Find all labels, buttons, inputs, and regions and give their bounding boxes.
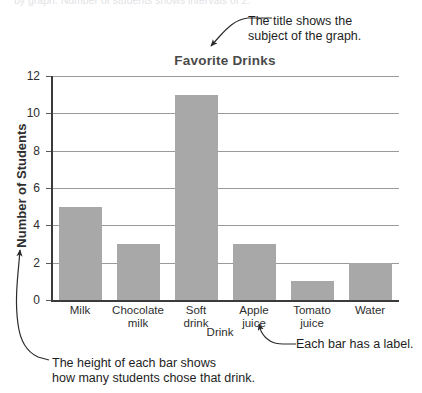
- x-axis-category-label-line: Apple: [225, 304, 283, 317]
- clipped-header-text: by graph. Number of students shows inter…: [14, 0, 414, 6]
- bar: [291, 281, 334, 300]
- worksheet-figure: by graph. Number of students shows inter…: [0, 0, 422, 393]
- gridline: [51, 151, 399, 152]
- y-axis-title: Number of Students: [14, 96, 29, 276]
- x-axis-category-label-line: Tomato: [283, 304, 341, 317]
- y-axis-tick: [46, 188, 51, 189]
- x-axis-category-label: Chocolatemilk: [109, 304, 167, 330]
- y-axis-line: [51, 76, 53, 301]
- annotation-bar-height-note-line2: how many students chose that drink.: [52, 371, 255, 386]
- x-axis-category-label: Water: [341, 304, 399, 317]
- gridline: [51, 263, 399, 264]
- x-axis-category-label-line: juice: [283, 317, 341, 330]
- y-axis-tick: [46, 225, 51, 226]
- bar: [59, 207, 102, 300]
- annotation-bar-height-note: The height of each bar shows how many st…: [52, 356, 255, 386]
- x-axis-category-label: Tomatojuice: [283, 304, 341, 330]
- annotation-bar-label-note: Each bar has a label.: [296, 337, 413, 352]
- bar: [175, 95, 218, 300]
- y-axis-tick: [46, 76, 51, 77]
- x-axis-category-label-line: Water: [341, 304, 399, 317]
- annotation-title-note-line2: subject of the graph.: [248, 29, 361, 44]
- y-axis-tick: [46, 300, 51, 301]
- gridline: [51, 188, 399, 189]
- y-axis-tick: [46, 151, 51, 152]
- x-axis-line: [51, 300, 399, 302]
- annotation-title-note-line1: The title shows the: [248, 14, 361, 29]
- y-axis-tick: [46, 113, 51, 114]
- x-axis-category-label-line: Soft: [167, 304, 225, 317]
- gridline: [51, 225, 399, 226]
- annotation-bar-label-note-line1: Each bar has a label.: [296, 337, 413, 352]
- bar: [233, 244, 276, 300]
- x-axis-category-label-line: Chocolate: [109, 304, 167, 317]
- bar: [349, 263, 392, 300]
- y-axis-tick-label: 12: [18, 70, 40, 82]
- annotation-bar-height-note-line1: The height of each bar shows: [52, 356, 255, 371]
- y-axis-tick-label: 0: [18, 294, 40, 306]
- gridline: [51, 113, 399, 114]
- x-axis-category-label: Milk: [51, 304, 109, 317]
- chart-title: Favorite Drinks: [150, 53, 300, 68]
- y-axis-tick: [46, 263, 51, 264]
- annotation-title-note: The title shows the subject of the graph…: [248, 14, 361, 44]
- gridline: [51, 76, 399, 77]
- x-axis-title: Drink: [185, 326, 255, 338]
- plot-area: [51, 76, 399, 300]
- x-axis-category-label-line: Milk: [51, 304, 109, 317]
- bar: [117, 244, 160, 300]
- x-axis-category-label-line: milk: [109, 317, 167, 330]
